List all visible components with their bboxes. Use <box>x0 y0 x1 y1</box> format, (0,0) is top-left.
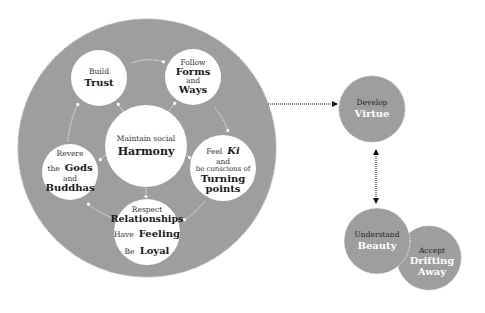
node-relationships-main: Relationships <box>111 214 184 224</box>
node-drifting: Accept Drifting Away <box>401 232 463 292</box>
node-drifting-main2: Away <box>418 267 446 278</box>
node-relationships-pre3: Be <box>125 247 135 256</box>
node-center: Maintain social Harmony <box>105 105 187 187</box>
node-gods-main: Gods <box>65 162 93 173</box>
node-ki-pre: Feel <box>206 147 222 156</box>
node-trust-main: Trust <box>84 78 114 89</box>
node-gods-pre-b: the <box>47 164 59 173</box>
node-forms: Follow Forms and Ways <box>165 49 221 105</box>
node-ki-main2: points <box>206 184 241 195</box>
node-beauty-main: Beauty <box>358 241 397 252</box>
node-virtue: Develop Virtue <box>339 76 405 142</box>
node-relationships-main2: Feeling <box>139 228 180 239</box>
node-relationships: Respect Relationships Have Feeling Be Lo… <box>114 199 180 265</box>
node-gods-main2: Buddhas <box>45 183 94 194</box>
node-center-pre: Maintain social <box>117 135 175 143</box>
node-forms-main2: Ways <box>179 85 207 96</box>
node-relationships-pre2: Have <box>114 230 134 239</box>
node-ki-italic: Ki <box>227 145 240 156</box>
node-center-main: Harmony <box>118 146 175 158</box>
node-trust-pre: Build <box>89 68 109 76</box>
node-gods: Revere the Gods and Buddhas <box>42 144 98 200</box>
node-relationships-main3: Loyal <box>140 245 170 256</box>
node-trust: Build Trust <box>71 50 127 106</box>
node-drifting-pre: Accept <box>419 247 445 255</box>
node-virtue-main: Virtue <box>355 109 390 120</box>
node-virtue-pre: Develop <box>357 99 388 107</box>
node-beauty-pre: Understand <box>355 231 400 239</box>
node-ki: Feel Ki and be conscious of Turning poin… <box>190 135 256 201</box>
